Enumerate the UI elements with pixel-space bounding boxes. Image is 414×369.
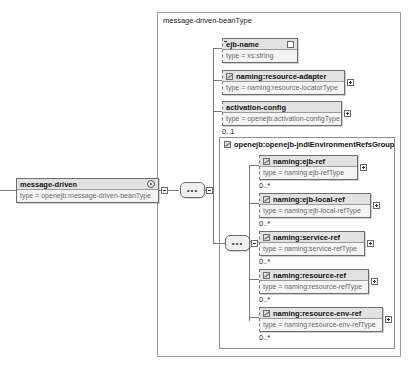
element-name-ejb-ref: naming:ejb-ref: [273, 156, 325, 167]
schema-diagram-canvas: message-driven-beanType message-driven t…: [0, 0, 414, 369]
element-title-row: naming:ejb-ref: [260, 156, 357, 167]
connector-root-to-sequence: [0, 190, 16, 191]
element-name-resource-ref: naming:resource-ref: [273, 270, 346, 281]
element-title-row: activation-config: [223, 102, 341, 113]
sequence-node-root[interactable]: •••: [180, 182, 205, 198]
expand-toggle-resource-adapter[interactable]: [347, 79, 354, 86]
element-type-activation-config: type = openejb:activation-configType: [223, 113, 341, 124]
element-title-row: ejb-name: [223, 39, 297, 50]
element-ref-icon: [263, 196, 270, 203]
group-ref-icon: [224, 141, 231, 148]
spine-main: [213, 48, 214, 244]
expand-toggle-resource-env-ref[interactable]: [385, 316, 392, 323]
expand-toggle-resource-ref[interactable]: [371, 278, 378, 285]
branch-resource-adapter: [213, 80, 222, 81]
expand-toggle-message-driven[interactable]: [161, 187, 168, 194]
element-title-row: naming:ejb-local-ref: [260, 194, 370, 205]
group-name-jndi-env-refs: openejb:openejb-jndiEnvironmentRefsGroup: [234, 140, 394, 149]
element-type-ejb-local-ref: type = naming:ejb-local-refType: [260, 205, 370, 216]
element-type-service-ref: type = naming:service-refType: [260, 243, 364, 254]
cardinality-service-ref: 0..*: [259, 257, 270, 266]
element-type-resource-adapter: type = naming:resource-locatorType: [223, 82, 344, 93]
attributes-circle-icon: [147, 180, 155, 188]
element-box-message-driven[interactable]: message-driven type = openejb:message-dr…: [16, 178, 159, 203]
element-title-row: message-driven: [17, 179, 158, 190]
element-box-service-ref[interactable]: naming:service-ref type = naming:service…: [259, 231, 365, 256]
cardinality-resource-env-ref: 0..*: [259, 333, 270, 342]
cardinality-ejb-local-ref: 0..*: [259, 219, 270, 228]
cardinality-activation-config: 0..1: [222, 127, 235, 136]
collapse-toggle-ejb-name[interactable]: [287, 41, 294, 48]
cardinality-ejb-ref: 0..*: [259, 181, 270, 190]
expand-toggle-service-ref[interactable]: [367, 240, 374, 247]
element-box-activation-config[interactable]: activation-config type = openejb:activat…: [222, 101, 342, 126]
type-container-label: message-driven-beanType: [163, 16, 252, 25]
element-ref-icon: [226, 73, 233, 80]
expand-toggle-sequence-group[interactable]: [251, 240, 258, 247]
element-box-ejb-ref[interactable]: naming:ejb-ref type = naming:ejb-refType: [259, 155, 358, 180]
sequence-node-dots: •••: [181, 188, 204, 193]
element-box-resource-env-ref[interactable]: naming:resource-env-ref type = naming:re…: [259, 307, 383, 332]
element-ref-icon: [263, 158, 270, 165]
element-box-ejb-local-ref[interactable]: naming:ejb-local-ref type = naming:ejb-l…: [259, 193, 371, 218]
element-name-message-driven: message-driven: [20, 179, 77, 190]
element-name-ejb-name: ejb-name: [226, 39, 259, 50]
element-type-ejb-ref: type = naming:ejb-refType: [260, 167, 357, 178]
element-title-row: naming:service-ref: [260, 232, 364, 243]
element-title-row: naming:resource-env-ref: [260, 308, 382, 319]
element-title-row: naming:resource-adapter: [223, 71, 344, 82]
element-box-ejb-name[interactable]: ejb-name type = xs:string: [222, 38, 298, 63]
branch-ejb-name: [213, 48, 222, 49]
element-name-ejb-local-ref: naming:ejb-local-ref: [273, 194, 345, 205]
element-type-resource-env-ref: type = naming:resource-env-refType: [260, 319, 382, 330]
expand-toggle-sequence-root[interactable]: [206, 187, 213, 194]
element-box-resource-adapter[interactable]: naming:resource-adapter type = naming:re…: [222, 70, 345, 95]
element-ref-icon: [263, 234, 270, 241]
element-type-message-driven: type = openejb:message-driven-beanType: [17, 190, 158, 201]
element-name-resource-adapter: naming:resource-adapter: [236, 71, 326, 82]
sequence-node-group[interactable]: •••: [225, 235, 250, 251]
group-label-row: openejb:openejb-jndiEnvironmentRefsGroup: [224, 140, 394, 149]
element-title-row: naming:resource-ref: [260, 270, 368, 281]
branch-activation-config: [213, 111, 222, 112]
cardinality-resource-ref: 0..*: [259, 295, 270, 304]
sequence-node-dots: •••: [226, 241, 249, 246]
expand-toggle-ejb-local-ref[interactable]: [373, 202, 380, 209]
element-type-resource-ref: type = naming:resource-refType: [260, 281, 368, 292]
element-name-resource-env-ref: naming:resource-env-ref: [273, 308, 361, 319]
expand-toggle-ejb-ref[interactable]: [360, 164, 367, 171]
element-ref-icon: [263, 272, 270, 279]
element-ref-icon: [263, 310, 270, 317]
expand-toggle-activation-config[interactable]: [344, 110, 351, 117]
element-name-activation-config: activation-config: [226, 102, 286, 113]
element-type-ejb-name: type = xs:string: [223, 50, 297, 61]
element-box-resource-ref[interactable]: naming:resource-ref type = naming:resour…: [259, 269, 369, 294]
element-name-service-ref: naming:service-ref: [273, 232, 340, 243]
